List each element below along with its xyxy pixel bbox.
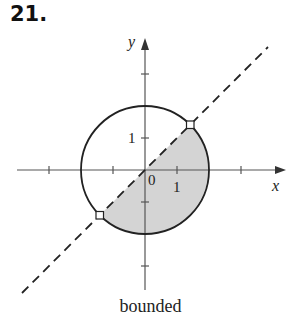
open-point-lower <box>96 212 104 220</box>
y-axis-label: y <box>126 33 136 51</box>
origin-label: 0 <box>148 172 156 188</box>
open-point-upper <box>187 121 195 129</box>
graph: y x 0 1 1 <box>0 0 301 324</box>
y-tick-label-1: 1 <box>128 130 136 146</box>
y-axis-arrow-icon <box>141 38 149 50</box>
x-axis-arrow-icon <box>275 166 286 174</box>
x-tick-label-1: 1 <box>173 179 181 195</box>
caption: bounded <box>0 296 301 317</box>
x-axis-label: x <box>271 177 279 194</box>
